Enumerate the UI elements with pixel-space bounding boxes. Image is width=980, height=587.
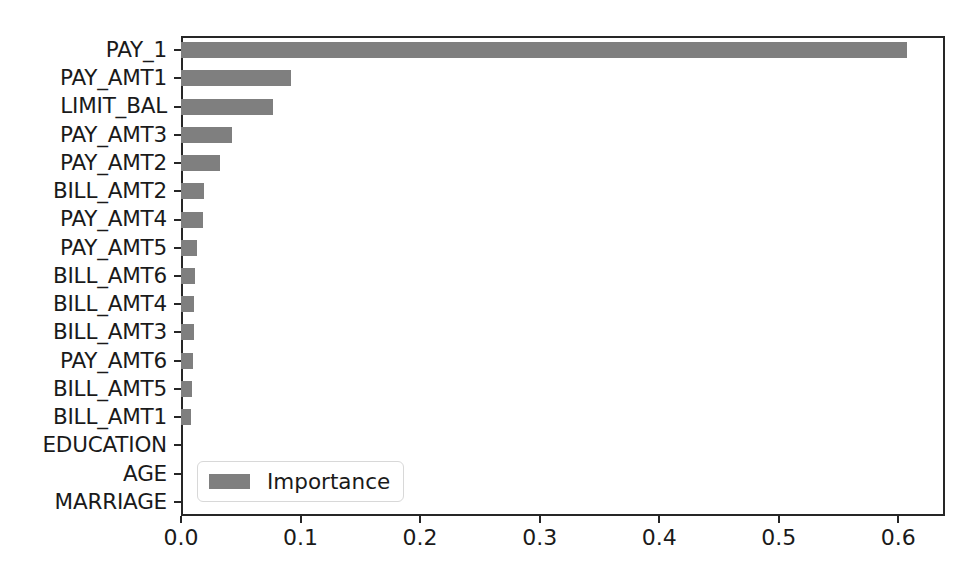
y-tick-mark [174, 501, 181, 503]
y-tick-mark [174, 49, 181, 51]
x-tick-mark [897, 516, 899, 523]
y-tick-mark [174, 162, 181, 164]
y-tick-label-pay_amt3: PAY_AMT3 [60, 121, 167, 149]
bar-bill_amt3 [181, 324, 194, 340]
x-tick-label-0.4: 0.4 [642, 525, 677, 550]
bar-row [181, 177, 945, 205]
y-tick-mark [174, 275, 181, 277]
y-tick-label-pay_1: PAY_1 [106, 36, 167, 64]
bar-pay_amt2 [181, 155, 220, 171]
y-tick-mark [174, 388, 181, 390]
y-tick-mark [174, 134, 181, 136]
y-tick-mark [174, 190, 181, 192]
y-tick-label-bill_amt1: BILL_AMT1 [53, 403, 167, 431]
bar-row [181, 403, 945, 431]
bars-layer [181, 36, 945, 516]
bar-bill_amt1 [181, 409, 191, 425]
y-tick-label-bill_amt6: BILL_AMT6 [53, 262, 167, 290]
legend[interactable]: Importance [197, 461, 404, 502]
x-tick-label-0.5: 0.5 [761, 525, 796, 550]
bar-bill_amt2 [181, 183, 204, 199]
bar-row [181, 375, 945, 403]
x-axis: 0.00.10.20.30.40.50.6 [181, 516, 945, 576]
bar-pay_amt4 [181, 212, 203, 228]
y-tick-mark [174, 303, 181, 305]
y-tick-mark [174, 77, 181, 79]
y-tick-label-age: AGE [123, 460, 167, 488]
y-tick-mark [174, 444, 181, 446]
y-axis: PAY_1PAY_AMT1LIMIT_BALPAY_AMT3PAY_AMT2BI… [0, 36, 181, 516]
bar-row [181, 205, 945, 233]
x-tick-mark [419, 516, 421, 523]
figure-canvas: PAY_1PAY_AMT1LIMIT_BALPAY_AMT3PAY_AMT2BI… [0, 0, 980, 587]
y-tick-label-bill_amt3: BILL_AMT3 [53, 318, 167, 346]
y-tick-label-pay_amt4: PAY_AMT4 [60, 205, 167, 233]
y-tick-mark [174, 416, 181, 418]
x-tick-label-0.2: 0.2 [403, 525, 438, 550]
y-tick-mark [174, 106, 181, 108]
bar-pay_amt6 [181, 353, 193, 369]
bar-bill_amt5 [181, 381, 192, 397]
legend-swatch-importance [209, 474, 250, 489]
x-tick-mark [539, 516, 541, 523]
y-tick-label-pay_amt1: PAY_AMT1 [60, 64, 167, 92]
legend-label-importance: Importance [267, 469, 390, 494]
x-tick-mark [300, 516, 302, 523]
y-tick-mark [174, 219, 181, 221]
bar-row [181, 234, 945, 262]
bar-pay_amt3 [181, 127, 232, 143]
bar-row [181, 36, 945, 64]
x-tick-mark [180, 516, 182, 523]
y-tick-label-pay_amt5: PAY_AMT5 [60, 234, 167, 262]
y-tick-mark [174, 247, 181, 249]
bar-row [181, 290, 945, 318]
x-tick-label-0.6: 0.6 [881, 525, 916, 550]
bar-row [181, 121, 945, 149]
bar-pay_amt5 [181, 240, 197, 256]
y-tick-label-pay_amt2: PAY_AMT2 [60, 149, 167, 177]
x-tick-label-0.0: 0.0 [164, 525, 199, 550]
y-tick-label-limit_bal: LIMIT_BAL [60, 92, 167, 120]
bar-row [181, 347, 945, 375]
bar-row [181, 92, 945, 120]
y-tick-label-education: EDUCATION [42, 431, 167, 459]
bar-bill_amt6 [181, 268, 195, 284]
x-tick-mark [658, 516, 660, 523]
bar-row [181, 431, 945, 459]
bar-row [181, 318, 945, 346]
y-tick-label-bill_amt4: BILL_AMT4 [53, 290, 167, 318]
bar-bill_amt4 [181, 296, 194, 312]
x-tick-label-0.1: 0.1 [283, 525, 318, 550]
x-tick-label-0.3: 0.3 [522, 525, 557, 550]
y-tick-mark [174, 331, 181, 333]
bar-pay_1 [181, 42, 907, 58]
bar-row [181, 64, 945, 92]
bar-limit_bal [181, 99, 273, 115]
y-tick-mark [174, 473, 181, 475]
bar-row [181, 149, 945, 177]
y-tick-label-pay_amt6: PAY_AMT6 [60, 347, 167, 375]
x-tick-mark [778, 516, 780, 523]
y-tick-label-bill_amt2: BILL_AMT2 [53, 177, 167, 205]
bar-row [181, 262, 945, 290]
y-tick-label-bill_amt5: BILL_AMT5 [53, 375, 167, 403]
y-tick-label-marriage: MARRIAGE [55, 488, 167, 516]
bar-pay_amt1 [181, 70, 291, 86]
y-tick-mark [174, 360, 181, 362]
